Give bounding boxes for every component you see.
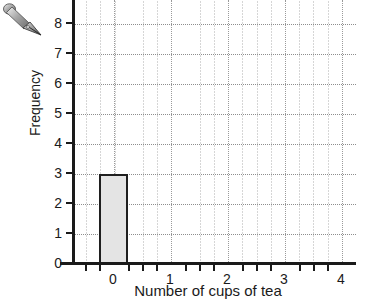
y-tick-5	[66, 112, 75, 114]
y-axis-line	[72, 0, 75, 264]
y-tick-label-5: 5	[40, 106, 62, 120]
gridline-x-4	[342, 0, 343, 264]
x-tick-boundary-left	[85, 263, 87, 271]
x-tick-boundary-0-1	[128, 263, 130, 271]
y-tick-label-1: 1	[40, 226, 62, 240]
y-tick-label-2: 2	[40, 196, 62, 210]
y-tick-4	[66, 142, 75, 144]
x-tick-3	[270, 263, 272, 271]
y-tick-1	[66, 232, 75, 234]
y-tick-label-7: 7	[40, 46, 62, 60]
x-tick-minor-3	[199, 263, 201, 271]
y-tick-8	[66, 22, 75, 24]
x-tick-minor-4	[242, 263, 244, 271]
bar-category-0	[99, 174, 128, 264]
gridline-x-2	[228, 0, 229, 264]
y-tick-0	[66, 262, 75, 264]
x-tick-minor-1	[142, 263, 144, 271]
y-tick-3	[66, 172, 75, 174]
bar-chart-figure: 0 1 2 3 4 5 6 7 8 0 1 2 3 4 Frequency Nu…	[0, 0, 371, 301]
x-axis-line	[60, 262, 356, 265]
y-tick-7	[66, 52, 75, 54]
plot-area	[72, 0, 356, 264]
x-tick-0	[99, 263, 101, 271]
x-tick-minor-5	[256, 263, 258, 271]
x-tick-4	[327, 263, 329, 271]
x-tick-minor-6	[299, 263, 301, 271]
x-tick-2	[213, 263, 215, 271]
y-tick-label-6: 6	[40, 76, 62, 90]
y-axis-title: Frequency	[28, 58, 42, 148]
y-tick-label-3: 3	[40, 166, 62, 180]
y-tick-6	[66, 82, 75, 84]
y-tick-label-8: 8	[40, 16, 62, 30]
x-tick-minor-2	[185, 263, 187, 271]
gridline-x-3	[285, 0, 286, 264]
y-tick-2	[66, 202, 75, 204]
y-tick-label-4: 4	[40, 136, 62, 150]
y-tick-label-0: 0	[40, 256, 62, 270]
x-tick-minor-7	[313, 263, 315, 271]
x-axis-title: Number of cups of tea	[60, 283, 356, 299]
x-tick-1	[156, 263, 158, 271]
gridline-x-1	[171, 0, 172, 264]
